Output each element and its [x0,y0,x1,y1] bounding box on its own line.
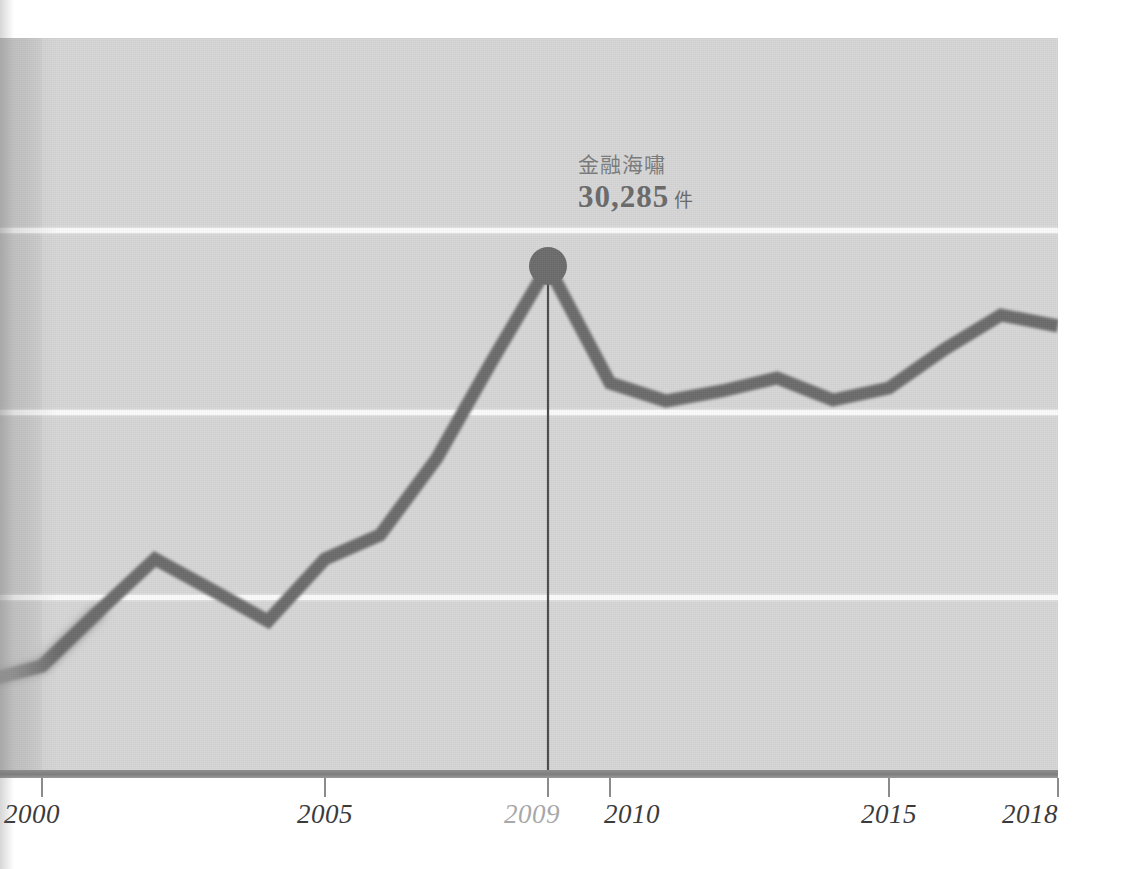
x-label-2005: 2005 [297,799,353,830]
x-tick-2000 [41,778,43,797]
line-series-svg [0,38,1058,772]
annotation-value-row: 30,285件 [578,180,693,219]
chart-figure: 200020052009201020152018 金融海嘯 30,285件 [0,0,1122,869]
page-margin-top [0,0,1122,38]
plot-area [0,38,1058,772]
annotation-label: 金融海嘯 [578,152,693,178]
annotation-unit: 件 [674,190,693,211]
x-label-2010: 2010 [604,799,660,830]
page-margin-bottom [0,772,1122,869]
x-tick-2005 [324,778,326,797]
x-tick-2009 [547,778,549,797]
x-label-2009: 2009 [504,799,560,830]
x-tick-2010 [609,778,611,797]
x-axis-bar [0,770,1058,778]
x-label-2015: 2015 [861,799,917,830]
peak-marker-dot[interactable] [529,247,567,285]
x-label-2000: 2000 [4,799,60,830]
x-label-2018: 2018 [1002,799,1058,830]
page-margin-right [1058,0,1122,869]
x-tick-2018 [1057,778,1059,797]
annotation-callout: 金融海嘯 30,285件 [578,152,693,219]
series-line [0,266,1058,683]
annotation-value: 30,285 [578,179,669,214]
x-tick-2015 [888,778,890,797]
